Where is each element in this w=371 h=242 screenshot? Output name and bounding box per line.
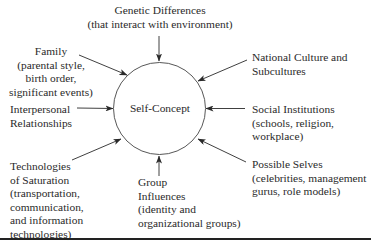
self-concept-label: Self-Concept: [114, 102, 206, 114]
arrow-national: [198, 60, 247, 81]
label-line: Genetic Differences: [84, 4, 236, 18]
label-line: Group: [138, 176, 241, 190]
label-line: (schools, religion,: [252, 117, 335, 131]
label-line: Technologies: [10, 160, 84, 174]
label-line: Social Institutions: [252, 103, 335, 117]
arrow-interpersonal: [77, 108, 113, 109]
label-social-institutions: Social Institutions (schools, religion, …: [252, 103, 335, 144]
label-possible-selves: Possible Selves (celebrities, management…: [252, 158, 367, 199]
label-line: (identity and: [138, 203, 241, 217]
label-line: of Saturation: [10, 174, 84, 188]
label-line: (transportation,: [10, 187, 84, 201]
label-family: Family (parental style, birth order, sig…: [8, 45, 94, 99]
label-line: (that interact with environment): [84, 18, 236, 32]
label-genetic-differences: Genetic Differences (that interact with …: [84, 4, 236, 31]
arrow-technologies: [72, 139, 121, 160]
label-technologies-of-saturation: Technologies of Saturation (transportati…: [10, 160, 84, 242]
bottom-rule: [0, 238, 371, 240]
label-group-influences: Group Influences (identity and organizat…: [138, 176, 241, 230]
label-line: communication,: [10, 201, 84, 215]
label-line: Relationships: [10, 117, 72, 131]
label-line: (parental style,: [8, 59, 94, 73]
label-line: (celebrities, management: [252, 172, 367, 186]
label-line: workplace): [252, 130, 335, 144]
label-line: gurus, role models): [252, 185, 367, 199]
label-line: Family: [8, 45, 94, 59]
label-line: organizational groups): [138, 217, 241, 231]
label-interpersonal-relationships: Interpersonal Relationships: [10, 103, 72, 130]
label-line: Influences: [138, 190, 241, 204]
label-line: National Culture and: [252, 51, 348, 65]
label-national-culture: National Culture and Subcultures: [252, 51, 348, 78]
label-line: Possible Selves: [252, 158, 367, 172]
label-line: and information: [10, 214, 84, 228]
label-line: Interpersonal: [10, 103, 72, 117]
arrow-possible: [198, 139, 246, 162]
label-line: birth order,: [8, 72, 94, 86]
label-line: significant events): [8, 86, 94, 100]
label-line: Subcultures: [252, 65, 348, 79]
